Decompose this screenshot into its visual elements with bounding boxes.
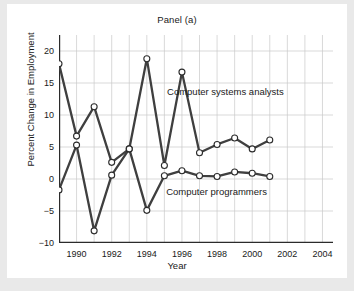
- data-point-marker: [109, 172, 115, 178]
- data-point-marker: [197, 173, 203, 179]
- data-point-marker: [179, 69, 185, 75]
- x-axis-tick-label: 1994: [127, 249, 167, 259]
- x-axis-tick-label: 1990: [57, 249, 97, 259]
- x-axis-title: Year: [7, 260, 347, 271]
- y-axis-tick-label: 0: [20, 174, 54, 184]
- data-point-marker: [74, 133, 80, 139]
- data-point-marker: [214, 173, 220, 179]
- y-axis-tick-label: 10: [20, 110, 54, 120]
- data-point-marker: [59, 187, 62, 193]
- chart-title: Panel (a): [7, 14, 347, 25]
- data-point-marker: [179, 168, 185, 174]
- plot-svg: [59, 35, 333, 243]
- data-point-marker: [126, 146, 132, 152]
- y-axis-tick-label: −5: [20, 206, 54, 216]
- data-point-marker: [232, 169, 238, 175]
- data-point-marker: [161, 163, 167, 169]
- x-axis-tick-label: 2002: [267, 249, 307, 259]
- data-point-marker: [144, 207, 150, 213]
- data-point-marker: [197, 150, 203, 156]
- data-point-marker: [59, 61, 62, 67]
- x-axis-tick-label: 2004: [302, 249, 342, 259]
- data-point-marker: [249, 170, 255, 176]
- y-axis-tick-label: 15: [20, 78, 54, 88]
- x-axis-tick-label: 1992: [92, 249, 132, 259]
- data-point-marker: [109, 159, 115, 165]
- data-point-marker: [91, 104, 97, 110]
- x-axis-tick-label: 2000: [232, 249, 272, 259]
- series-annotation-0: Computer systems analysts: [167, 86, 284, 97]
- plot-area: [59, 35, 333, 243]
- data-point-marker: [161, 173, 167, 179]
- chart-figure: Panel (a) Percent Change in Employment Y…: [7, 4, 347, 278]
- y-axis-tick-label: 5: [20, 142, 54, 152]
- y-axis-tick-label: 20: [20, 46, 54, 56]
- data-point-marker: [232, 135, 238, 141]
- data-point-marker: [144, 56, 150, 62]
- data-point-marker: [267, 137, 273, 143]
- data-point-marker: [267, 173, 273, 179]
- data-point-marker: [91, 228, 97, 234]
- y-axis-title: Percent Change in Employment: [25, 15, 36, 185]
- x-axis-tick-label: 1996: [162, 249, 202, 259]
- data-point-marker: [214, 141, 220, 147]
- x-axis-tick-label: 1998: [197, 249, 237, 259]
- y-axis-tick-label: −10: [20, 238, 54, 248]
- series-annotation-1: Computer programmers: [166, 186, 267, 197]
- data-point-marker: [249, 146, 255, 152]
- data-point-marker: [74, 142, 80, 148]
